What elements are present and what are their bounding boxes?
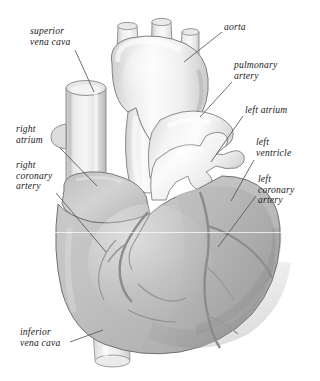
label-inferior-vena-cava: inferior vena cava	[20, 327, 60, 348]
label-superior-vena-cava: superior vena cava	[30, 26, 70, 47]
scan-artifact-line	[0, 232, 320, 233]
label-left-coronary-artery: left coronary artery	[258, 174, 294, 206]
label-left-atrium: left atrium	[245, 105, 287, 116]
heart-anatomy-figure: superior vena cavaright atriumright coro…	[0, 0, 320, 381]
label-right-atrium: right atrium	[16, 124, 43, 145]
label-left-ventricle: left ventricle	[256, 137, 291, 158]
label-right-coronary-artery: right coronary artery	[16, 160, 52, 192]
label-pulmonary-artery: pulmonary artery	[234, 60, 277, 81]
label-aorta: aorta	[224, 22, 246, 33]
